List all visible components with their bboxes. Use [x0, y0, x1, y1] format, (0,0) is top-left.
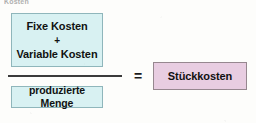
result-box: Stückkosten [153, 62, 247, 90]
denominator-label: produzierte Menge [12, 84, 102, 110]
formula-diagram: Kosten Fixe Kosten + Variable Kosten pro… [0, 0, 256, 123]
equals-operator: = [130, 68, 146, 84]
numerator-line-variable-costs: Variable Kosten [16, 47, 97, 62]
numerator-line-fixed-costs: Fixe Kosten [26, 19, 87, 34]
numerator-plus-operator: + [54, 34, 60, 47]
fraction-bar [8, 75, 122, 77]
numerator-box: Fixe Kosten + Variable Kosten [11, 13, 103, 67]
clipped-heading-fragment: Kosten [4, 0, 48, 6]
result-label: Stückkosten [168, 69, 232, 83]
denominator-box: produzierte Menge [11, 86, 103, 108]
